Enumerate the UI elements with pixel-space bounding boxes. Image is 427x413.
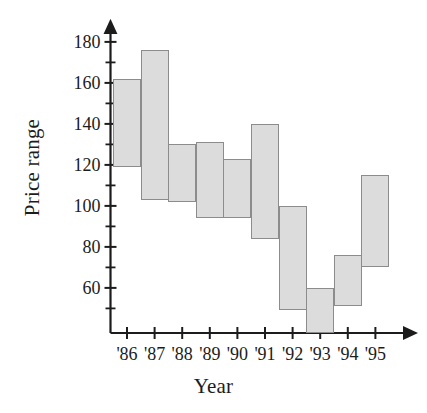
chart-figure: Price range Year 1801601401201008060 '86… [0, 0, 427, 413]
bar-y93 [306, 288, 334, 333]
y-tick-label: 80 [55, 238, 101, 256]
bar-y87 [141, 50, 169, 200]
bar-y91 [251, 124, 279, 239]
bar-y86 [113, 79, 141, 167]
y-tick-label: 160 [55, 74, 101, 92]
y-tick-label: 140 [55, 115, 101, 133]
bar-y89 [196, 142, 224, 218]
y-tick-label: 180 [55, 33, 101, 51]
plot-area: 1801601401201008060 '86'87'88'89'90'91'9… [0, 0, 427, 413]
y-tick-label: 60 [55, 279, 101, 297]
bar-y92 [279, 206, 307, 311]
bar-y88 [168, 144, 196, 201]
y-tick-label: 120 [55, 156, 101, 174]
y-tick-label: 100 [55, 197, 101, 215]
bar-y95 [361, 175, 389, 267]
x-tick-label: '95 [355, 345, 395, 363]
bar-y94 [334, 255, 362, 306]
bar-y90 [223, 159, 251, 218]
